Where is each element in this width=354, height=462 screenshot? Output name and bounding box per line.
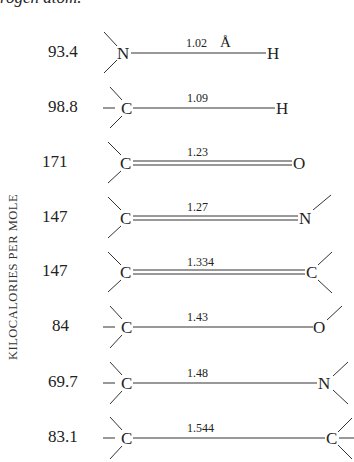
bond-length: 1.48 [187,366,208,380]
bond-row-c-h: C H 1.09 [103,87,288,128]
bond-row-c-o-double: C O 1.23 [108,142,305,183]
left-atom: C [121,318,132,337]
right-atom: N [299,209,311,228]
bond-length: 1.27 [187,200,208,214]
bond-length: 1.334 [187,255,214,269]
right-atom: N [318,374,330,393]
left-atom: C [120,209,131,228]
bond-row-c-n-single: C N 1.48 [103,362,348,404]
left-atom: C [121,374,132,393]
right-atom: O [313,318,325,337]
left-atom: C [120,154,131,173]
bond-row-n-h: N H 1.02 Å [104,32,279,73]
bond-length: 1.544 [187,421,214,435]
right-atom: O [293,154,305,173]
left-atom: C [121,99,132,118]
bond-row-c-o-single: C O 1.43 [103,306,342,348]
bond-length: 1.23 [187,145,208,159]
left-atom: N [117,44,129,63]
bond-diagram: N H 1.02 Å C H 1.09 C O 1.23 C N 1.27 [0,0,354,462]
bond-row-c-c-single: C C 1.544 [103,417,354,459]
bond-length: 1.43 [187,310,208,324]
angstrom-unit: Å [220,34,231,50]
bond-row-c-n-double: C N 1.27 [108,195,331,238]
right-atom: C [326,429,337,448]
left-atom: C [121,429,132,448]
bond-row-c-c-double: C C 1.334 [108,252,332,293]
left-atom: C [120,263,131,282]
bond-length: 1.09 [187,91,208,105]
right-atom: C [306,263,317,282]
right-atom: H [276,99,288,118]
right-atom: H [267,44,279,63]
bond-length: 1.02 [186,36,207,50]
